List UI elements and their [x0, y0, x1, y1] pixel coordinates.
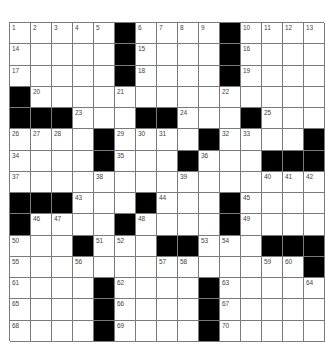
answer-cell[interactable]: [52, 257, 73, 278]
answer-cell[interactable]: [283, 129, 304, 150]
answer-cell[interactable]: [178, 214, 199, 235]
answer-cell[interactable]: 1: [10, 23, 31, 44]
answer-cell[interactable]: 64: [304, 278, 325, 299]
answer-cell[interactable]: [31, 321, 52, 342]
answer-cell[interactable]: [283, 193, 304, 214]
answer-cell[interactable]: [52, 321, 73, 342]
answer-cell[interactable]: [157, 44, 178, 65]
answer-cell[interactable]: [241, 278, 262, 299]
answer-cell[interactable]: [73, 87, 94, 108]
answer-cell[interactable]: 6: [136, 23, 157, 44]
answer-cell[interactable]: 48: [136, 214, 157, 235]
answer-cell[interactable]: [52, 172, 73, 193]
answer-cell[interactable]: [136, 321, 157, 342]
answer-cell[interactable]: [73, 299, 94, 320]
answer-cell[interactable]: 63: [220, 278, 241, 299]
answer-cell[interactable]: 57: [157, 257, 178, 278]
answer-cell[interactable]: [136, 257, 157, 278]
answer-cell[interactable]: [199, 87, 220, 108]
answer-cell[interactable]: [157, 321, 178, 342]
answer-cell[interactable]: [241, 151, 262, 172]
answer-cell[interactable]: 13: [304, 23, 325, 44]
answer-cell[interactable]: [283, 278, 304, 299]
answer-cell[interactable]: 44: [157, 193, 178, 214]
answer-cell[interactable]: [199, 108, 220, 129]
answer-cell[interactable]: [52, 66, 73, 87]
answer-cell[interactable]: [73, 44, 94, 65]
answer-cell[interactable]: [178, 321, 199, 342]
answer-cell[interactable]: 43: [73, 193, 94, 214]
answer-cell[interactable]: [94, 257, 115, 278]
answer-cell[interactable]: 4: [73, 23, 94, 44]
answer-cell[interactable]: [220, 172, 241, 193]
answer-cell[interactable]: 11: [262, 23, 283, 44]
answer-cell[interactable]: 14: [10, 44, 31, 65]
answer-cell[interactable]: [31, 236, 52, 257]
answer-cell[interactable]: [115, 193, 136, 214]
answer-cell[interactable]: 31: [157, 129, 178, 150]
answer-cell[interactable]: 9: [199, 23, 220, 44]
answer-cell[interactable]: 19: [241, 66, 262, 87]
answer-cell[interactable]: [31, 151, 52, 172]
answer-cell[interactable]: 65: [10, 299, 31, 320]
answer-cell[interactable]: [52, 278, 73, 299]
answer-cell[interactable]: [304, 299, 325, 320]
answer-cell[interactable]: [262, 193, 283, 214]
answer-cell[interactable]: [178, 87, 199, 108]
answer-cell[interactable]: [283, 66, 304, 87]
answer-cell[interactable]: [157, 214, 178, 235]
answer-cell[interactable]: [178, 299, 199, 320]
answer-cell[interactable]: [304, 193, 325, 214]
answer-cell[interactable]: [199, 66, 220, 87]
answer-cell[interactable]: 51: [94, 236, 115, 257]
answer-cell[interactable]: [262, 278, 283, 299]
answer-cell[interactable]: 56: [73, 257, 94, 278]
answer-cell[interactable]: [136, 172, 157, 193]
answer-cell[interactable]: [115, 257, 136, 278]
answer-cell[interactable]: 17: [10, 66, 31, 87]
answer-cell[interactable]: 29: [115, 129, 136, 150]
answer-cell[interactable]: [220, 108, 241, 129]
answer-cell[interactable]: [31, 66, 52, 87]
answer-cell[interactable]: 38: [94, 172, 115, 193]
answer-cell[interactable]: [283, 214, 304, 235]
answer-cell[interactable]: 35: [115, 151, 136, 172]
answer-cell[interactable]: [199, 44, 220, 65]
answer-cell[interactable]: [73, 129, 94, 150]
answer-cell[interactable]: 70: [220, 321, 241, 342]
answer-cell[interactable]: 15: [136, 44, 157, 65]
answer-cell[interactable]: 21: [115, 87, 136, 108]
answer-cell[interactable]: 7: [157, 23, 178, 44]
answer-cell[interactable]: [94, 87, 115, 108]
answer-cell[interactable]: [157, 151, 178, 172]
answer-cell[interactable]: [115, 108, 136, 129]
answer-cell[interactable]: 45: [241, 193, 262, 214]
answer-cell[interactable]: [73, 172, 94, 193]
answer-cell[interactable]: [199, 172, 220, 193]
answer-cell[interactable]: 67: [220, 299, 241, 320]
answer-cell[interactable]: 54: [220, 236, 241, 257]
answer-cell[interactable]: 53: [199, 236, 220, 257]
answer-cell[interactable]: 8: [178, 23, 199, 44]
answer-cell[interactable]: 36: [199, 151, 220, 172]
answer-cell[interactable]: 18: [136, 66, 157, 87]
answer-cell[interactable]: [157, 66, 178, 87]
answer-cell[interactable]: [52, 299, 73, 320]
answer-cell[interactable]: 62: [115, 278, 136, 299]
answer-cell[interactable]: [283, 44, 304, 65]
answer-cell[interactable]: [31, 257, 52, 278]
answer-cell[interactable]: [262, 129, 283, 150]
answer-cell[interactable]: [304, 87, 325, 108]
answer-cell[interactable]: [199, 257, 220, 278]
answer-cell[interactable]: 5: [94, 23, 115, 44]
answer-cell[interactable]: [136, 87, 157, 108]
answer-cell[interactable]: [178, 129, 199, 150]
answer-cell[interactable]: [241, 87, 262, 108]
answer-cell[interactable]: [304, 66, 325, 87]
answer-cell[interactable]: 28: [52, 129, 73, 150]
answer-cell[interactable]: [199, 214, 220, 235]
answer-cell[interactable]: [73, 151, 94, 172]
answer-cell[interactable]: [136, 278, 157, 299]
answer-cell[interactable]: [178, 278, 199, 299]
answer-cell[interactable]: [157, 87, 178, 108]
